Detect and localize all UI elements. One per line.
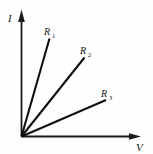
curve-line-r3 (22, 100, 107, 137)
current-axis (18, 10, 25, 137)
curve-line-r2 (22, 58, 85, 137)
curve-label-r3-base: R (100, 88, 107, 99)
current-axis-arrowhead (18, 10, 25, 23)
curve-label-r3: R 3 (100, 88, 112, 101)
curve-label-r1-base: R (43, 26, 50, 37)
voltage-axis-arrowhead (129, 133, 141, 140)
voltage-axis-label: V (136, 141, 144, 153)
curve-label-r2-base: R (79, 45, 86, 56)
voltage-axis (22, 133, 142, 140)
curve-label-r1: R 1 (43, 26, 55, 39)
curve-label-r3-subscript: 3 (109, 94, 112, 101)
curve-label-r2: R 2 (79, 45, 91, 58)
curve-label-r2-subscript: 2 (88, 51, 91, 58)
curve-line-r1 (22, 39, 50, 137)
iv-characteristic-figure: I V R 1 R 2 R 3 (0, 0, 153, 154)
current-axis-label: I (7, 12, 13, 24)
curve-label-r1-subscript: 1 (52, 32, 55, 39)
